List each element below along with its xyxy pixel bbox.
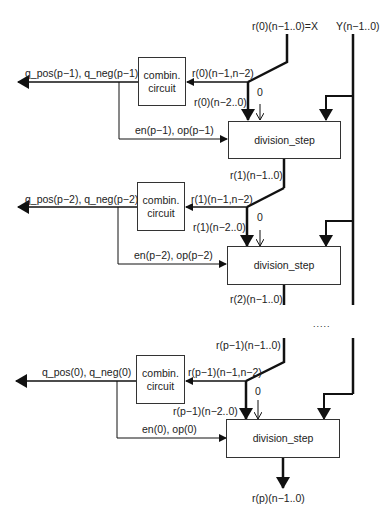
division-step-1: division_step [228, 121, 341, 159]
r-top-bits-label-3: r(p−1)(n−1,n−2) [188, 366, 262, 378]
r-out-label-1: r(1)(n−1..0) [230, 169, 283, 181]
division-step-label: division_step [254, 259, 315, 272]
r-out-label-2: r(2)(n−1..0) [230, 293, 283, 305]
combin-label: combin. [142, 367, 179, 379]
en-op-label-3: en(0), op(0) [142, 423, 197, 435]
division-step-label: division_step [253, 432, 314, 445]
combin-label: combin. [144, 69, 181, 81]
r-in-label-3: r(p−1)(n−1..0) [216, 339, 281, 351]
q-output-label-3: q_pos(0), q_neg(0) [42, 366, 131, 378]
division-step-3: division_step [226, 419, 340, 458]
combin-circuit-2: combin.circuit [137, 182, 185, 231]
division-step-2: division_step [227, 246, 341, 285]
zero-label-3: 0 [255, 385, 261, 397]
input-y-label: Y(n−1..0) [336, 20, 379, 32]
circuit-label: circuit [148, 82, 175, 94]
r-low-bits-label-1: r(0)(n−2..0) [194, 96, 247, 108]
division-step-label: division_step [254, 134, 315, 147]
zero-label-1: 0 [257, 86, 263, 98]
input-x-label: r(0)(n−1..0)=X [252, 20, 318, 32]
zero-label-2: 0 [257, 211, 263, 223]
r-low-bits-label-3: r(p−1)(n−2..0) [173, 405, 238, 417]
r-top-bits-label-2: r(1)(n−1,n−2) [191, 193, 253, 205]
q-output-label-2: q_pos(p−2), q_neg(p−2) [25, 193, 138, 205]
combin-circuit-3: combin.circuit [136, 355, 185, 404]
r-low-bits-label-2: r(1)(n−2..0) [193, 221, 246, 233]
circuit-label: circuit [147, 380, 174, 392]
en-op-label-1: en(p−1), op(p−1) [135, 124, 214, 136]
r-top-bits-label-1: r(0)(n−1,n−2) [192, 67, 254, 79]
ellipsis: ..... [313, 318, 331, 330]
circuit-label: circuit [147, 207, 174, 219]
combin-circuit-1: combin.circuit [138, 57, 186, 106]
combin-label: combin. [143, 194, 180, 206]
en-op-label-2: en(p−2), op(p−2) [134, 249, 213, 261]
q-output-label-1: q_pos(p−1), q_neg(p−1) [25, 67, 138, 79]
r-out-label-3: r(p)(n−1..0) [252, 492, 305, 504]
